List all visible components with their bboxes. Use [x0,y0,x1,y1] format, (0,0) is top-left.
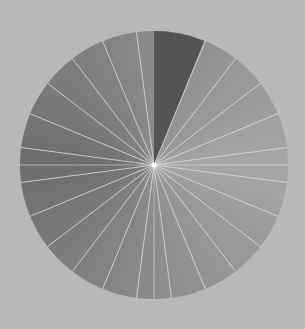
figure-canvas [0,0,305,329]
center-dot [152,163,157,168]
radial-disc [0,0,305,329]
